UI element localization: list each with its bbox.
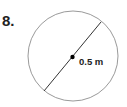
center-point — [70, 55, 74, 59]
measurement-label: 0.5 m — [79, 56, 103, 67]
circle-diagram — [0, 0, 127, 107]
